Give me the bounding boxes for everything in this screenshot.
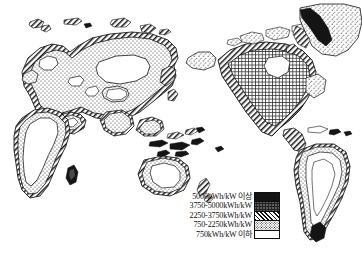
- legend-swatch-fine-stipple: [254, 220, 280, 229]
- legend-row: 2250-3750kWh/kW: [152, 211, 280, 220]
- legend-swatch-blank-white: [254, 230, 280, 239]
- screenshot-root: 5000kWh/kW 이상 3750-5000kWh/kW 2250-3750k…: [0, 0, 362, 253]
- legend-row: 5000kWh/kW 이상: [152, 192, 280, 201]
- legend-label: 750-2250kWh/kW: [152, 220, 254, 229]
- legend-row: 750kWh/kW 이하: [152, 230, 280, 239]
- world-map-figure: 5000kWh/kW 이상 3750-5000kWh/kW 2250-3750k…: [0, 0, 362, 253]
- legend-swatch-diagonal-hatch: [254, 211, 280, 220]
- legend-label: 2250-3750kWh/kW: [152, 211, 254, 220]
- legend-label: 3750-5000kWh/kW: [152, 201, 254, 210]
- map-legend: 5000kWh/kW 이상 3750-5000kWh/kW 2250-3750k…: [152, 192, 280, 242]
- legend-swatch-solid-black: [254, 192, 280, 201]
- legend-swatch-coarse-stipple: [254, 201, 280, 210]
- legend-label: 5000kWh/kW 이상: [152, 192, 254, 201]
- legend-label: 750kWh/kW 이하: [152, 230, 254, 239]
- legend-row: 750-2250kWh/kW: [152, 220, 280, 229]
- legend-row: 3750-5000kWh/kW: [152, 201, 280, 210]
- legend-rows: 5000kWh/kW 이상 3750-5000kWh/kW 2250-3750k…: [152, 192, 280, 239]
